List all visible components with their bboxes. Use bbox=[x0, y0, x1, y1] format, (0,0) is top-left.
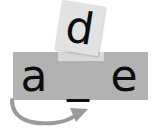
floating-letter-tile[interactable]: d bbox=[54, 0, 105, 56]
bar-slot-2-blank[interactable]: _ bbox=[56, 50, 100, 102]
bar-slot-3[interactable]: e bbox=[102, 50, 146, 102]
curved-move-arrow-icon bbox=[8, 98, 94, 129]
floating-tile-label: d bbox=[54, 0, 105, 56]
bar-slot-1[interactable]: a bbox=[12, 50, 56, 102]
letter-tile-diagram: a _ e d bbox=[0, 0, 158, 129]
